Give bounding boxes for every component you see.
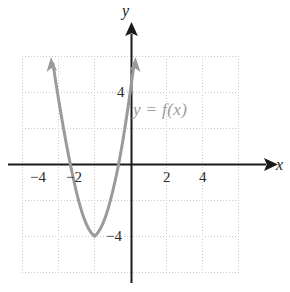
x-tick-label-neg2: −2 bbox=[66, 170, 82, 185]
graph-figure: y x −4 −2 2 4 4 −4 y = f(x) bbox=[0, 0, 290, 292]
y-tick-label-pos4: 4 bbox=[117, 85, 125, 100]
x-axis-label: x bbox=[276, 157, 283, 173]
x-tick-label-pos4: 4 bbox=[199, 170, 207, 185]
x-tick-label-pos2: 2 bbox=[163, 170, 171, 185]
coordinate-plane bbox=[0, 0, 290, 292]
curve-arrowheads bbox=[47, 57, 141, 72]
curve-arrow-left-icon bbox=[47, 57, 58, 72]
y-axis-label: y bbox=[122, 3, 129, 19]
y-tick-label-neg4: −4 bbox=[106, 229, 122, 244]
curve-equation-label: y = f(x) bbox=[133, 101, 187, 118]
x-tick-label-neg4: −4 bbox=[30, 170, 46, 185]
